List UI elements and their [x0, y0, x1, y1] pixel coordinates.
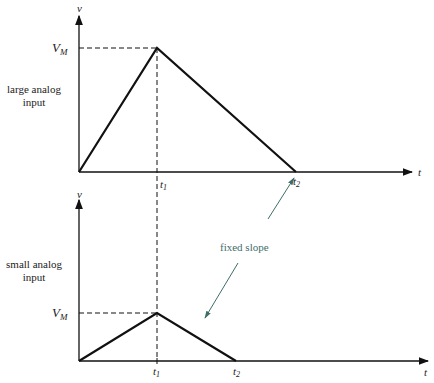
top-side-label-2: input	[23, 96, 46, 108]
bottom-panel: v t VM t1 t2 small analog input	[6, 188, 428, 379]
bottom-side-label-2: input	[23, 271, 46, 283]
bottom-side-label-1: small analog	[6, 258, 62, 270]
fixed-slope-annotation: fixed slope	[205, 178, 294, 318]
dual-slope-diagram: v t VM t1 t2 large analog input v t VM t…	[0, 0, 434, 383]
top-y-label: v	[77, 2, 82, 14]
bottom-vm-label: VM	[52, 305, 68, 322]
bottom-x-label: t	[424, 366, 428, 378]
fixed-slope-arrow-up	[268, 178, 294, 219]
bottom-t1-label: t1	[153, 365, 160, 379]
fixed-slope-label: fixed slope	[220, 241, 269, 253]
top-side-label-1: large analog	[7, 83, 61, 95]
top-x-label: t	[418, 166, 422, 178]
bottom-y-label: v	[77, 188, 82, 200]
top-panel: v t VM t1 t2 large analog input	[7, 2, 422, 358]
top-vm-label: VM	[52, 40, 68, 57]
bottom-t2-label: t2	[233, 365, 240, 379]
fixed-slope-arrow-down	[205, 263, 238, 318]
top-t2-label: t2	[293, 175, 300, 189]
top-waveform	[79, 48, 296, 172]
top-t1-label: t1	[160, 178, 167, 192]
